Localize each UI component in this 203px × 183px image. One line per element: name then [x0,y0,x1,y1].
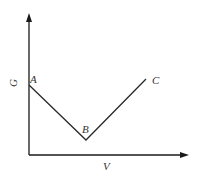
x-axis-arrow-icon [180,152,189,158]
x-axis-label: V [103,160,111,172]
y-axis-label: G [7,79,19,87]
point-c-label: C [152,74,160,86]
point-a-label: A [29,73,37,85]
y-axis-arrow-icon [26,13,32,22]
g-v-diagram: G V A B C [0,0,203,183]
point-b-label: B [82,123,89,135]
